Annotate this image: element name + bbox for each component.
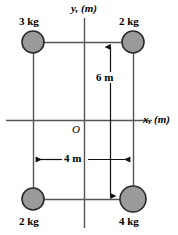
- mass-label-bottom-right: 4 kg: [119, 216, 139, 227]
- x-axis-label: x, (m): [143, 114, 170, 125]
- mass-circle-bottom-left: [22, 188, 44, 210]
- mass-circle-top-left: [22, 31, 44, 53]
- mass-circle-top-right: [122, 31, 144, 53]
- mass-label-top-left: 3 kg: [19, 16, 39, 27]
- dimension-label-horizontal: 4 m: [63, 153, 82, 164]
- mass-label-top-right: 2 kg: [119, 16, 139, 27]
- origin-label: O: [72, 124, 80, 135]
- mass-circle-bottom-right: [120, 186, 146, 212]
- mass-label-bottom-left: 2 kg: [19, 216, 39, 227]
- y-axis-label: y, (m): [71, 3, 97, 14]
- dimension-label-vertical: 6 m: [95, 72, 114, 83]
- physics-diagram-figure: 3 kg 2 kg 2 kg 4 kg y, (m) x, (m) O 6 m …: [0, 0, 178, 235]
